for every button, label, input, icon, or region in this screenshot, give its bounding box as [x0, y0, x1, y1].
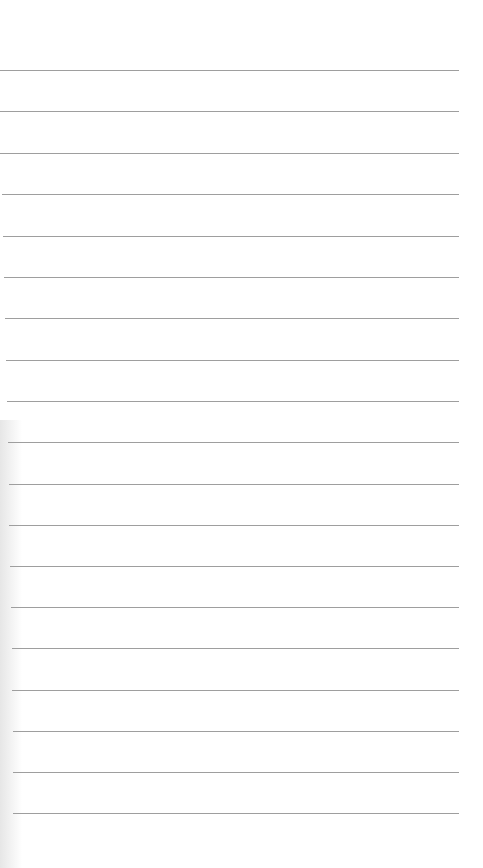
ruled-line — [10, 566, 459, 567]
ruled-line — [7, 401, 459, 402]
ruled-line — [0, 153, 459, 154]
ruled-line — [0, 70, 459, 71]
ruled-line — [4, 277, 459, 278]
ruled-line — [5, 318, 459, 319]
ruled-line — [0, 111, 459, 112]
ruled-line — [13, 731, 459, 732]
ruled-line — [3, 236, 459, 237]
ruled-line — [11, 607, 459, 608]
ruled-line — [13, 772, 459, 773]
ruled-line — [9, 525, 459, 526]
ruled-line — [13, 813, 459, 814]
ruled-line — [6, 360, 459, 361]
ruled-line — [12, 648, 459, 649]
ruled-line — [9, 484, 459, 485]
lined-paper-page — [0, 0, 483, 868]
ruled-line — [12, 690, 459, 691]
ruled-line — [2, 194, 459, 195]
ruled-line — [8, 442, 459, 443]
page-edge-shadow — [0, 420, 22, 868]
